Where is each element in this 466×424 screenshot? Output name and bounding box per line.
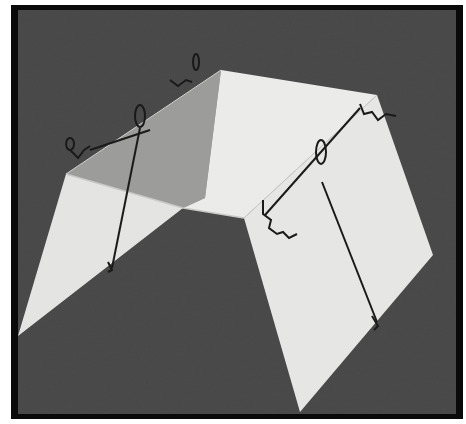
photograph [0, 0, 466, 424]
